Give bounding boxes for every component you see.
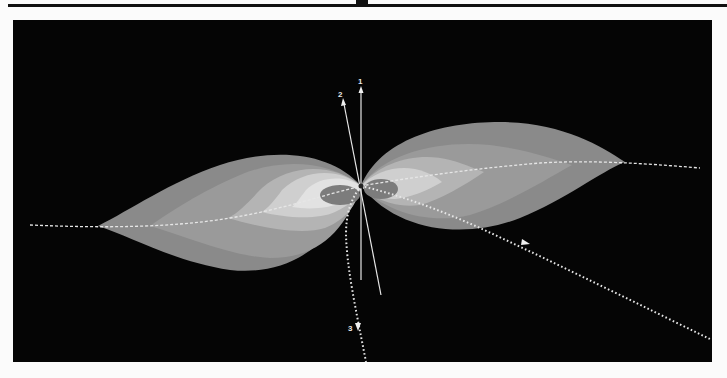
right-lobe xyxy=(361,122,625,230)
axis-3: 3 xyxy=(346,186,366,362)
axis-1-label: 1 xyxy=(358,77,363,86)
left-lobe xyxy=(98,155,361,271)
axis-3-label: 3 xyxy=(348,324,353,333)
origin-point xyxy=(359,184,364,189)
radiation-pattern-figure: 1 2 3 xyxy=(13,20,712,362)
figure-canvas: 1 2 3 xyxy=(13,20,712,362)
axis-2-label: 2 xyxy=(338,90,343,99)
top-rule xyxy=(8,4,727,7)
